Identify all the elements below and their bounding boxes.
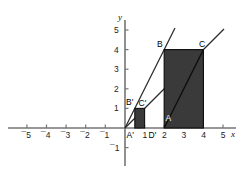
vertex-label-D: D <box>205 114 211 123</box>
x-tick-label--3: ¯3 <box>61 131 70 140</box>
y-tick-label-2: 2 <box>114 85 119 94</box>
rectangle-A-prime-B-prime-C-prime-D-prime <box>135 108 145 128</box>
vertex-label-A-prime: A' <box>127 131 134 140</box>
vertex-label-B-prime: B' <box>126 98 133 107</box>
x-tick-label--4: ¯4 <box>41 131 50 140</box>
y-tick-label--1: ¯1 <box>110 144 119 153</box>
x-tick-label-1: 1 <box>142 131 147 140</box>
coordinate-plane <box>0 0 252 171</box>
x-tick-label--1: ¯1 <box>100 131 109 140</box>
x-tick-label-4: 4 <box>201 131 206 140</box>
vertex-label-D-prime: D' <box>149 131 157 140</box>
x-tick-label--5: ¯5 <box>22 131 31 140</box>
dilation-figure: ¯5 ¯4 ¯3 ¯2 ¯1 1 2 3 4 5 5 4 3 2 1 ¯1 x … <box>0 0 252 171</box>
x-tick-label--2: ¯2 <box>80 131 89 140</box>
x-tick-label-5: 5 <box>221 131 226 140</box>
x-tick-label-2: 2 <box>162 131 167 140</box>
y-tick-label-4: 4 <box>114 46 119 55</box>
x-axis-label: x <box>231 130 235 139</box>
vertex-label-B: B <box>157 40 163 49</box>
y-tick-label-1: 1 <box>114 104 119 113</box>
vertex-label-C-prime: C' <box>139 99 147 108</box>
vertex-label-A: A <box>166 114 172 123</box>
y-tick-label-5: 5 <box>114 26 119 35</box>
x-tick-label-3: 3 <box>182 131 187 140</box>
y-tick-label-3: 3 <box>114 65 119 74</box>
vertex-label-C: C <box>199 40 205 49</box>
y-axis-label: y <box>118 13 122 22</box>
